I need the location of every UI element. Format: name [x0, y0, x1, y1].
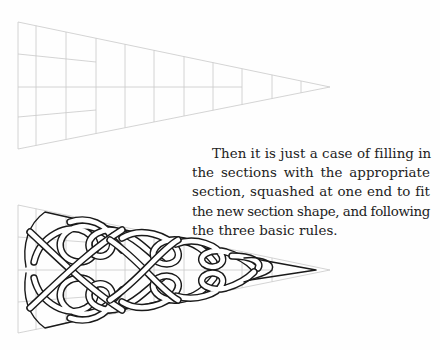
empty-tapered-grid	[18, 22, 330, 149]
caption-line-1: Then it is just a case of filling in	[192, 144, 430, 163]
book-page: Then it is just a case of filling in the…	[0, 0, 440, 350]
caption-line-3: section, squashed at one end to fit	[192, 182, 430, 201]
grid-outline	[18, 22, 330, 149]
caption-line-2: the sections with the appropriate	[192, 163, 430, 182]
caption-line-5: the three basic rules.	[192, 221, 430, 240]
caption-line-4: the new section shape, and following	[192, 202, 430, 221]
grid-vertical-lines	[36, 26, 301, 146]
knot-lower-row	[34, 272, 254, 320]
grid-horizontal-lines	[18, 54, 242, 117]
caption-paragraph: Then it is just a case of filling in the…	[192, 144, 430, 240]
